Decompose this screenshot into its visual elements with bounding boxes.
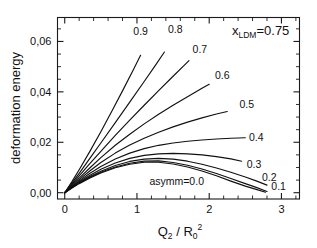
curve-series-group [65,52,267,193]
y-tick-label: 0,06 [30,35,51,47]
x-tick-label: 1 [134,203,140,215]
annotation-xldm-text: xLDM=0.75 [232,23,289,40]
curve-label-0-6: 0.6 [215,69,230,81]
x-tick-labels: 0123 [62,203,285,215]
curve-label-0-5: 0.5 [240,98,255,110]
x-axis-title-slash: / R [173,224,193,239]
x-axis-title-r-sub: 0 [193,231,198,241]
y-tick-label: 0,04 [30,86,51,98]
x-axis-title-text: Q2 / R02 [158,222,203,241]
y-axis-title: deformation energy [8,51,23,164]
x-tick-label: 2 [206,203,212,215]
curve-label-0-9: 0.9 [133,25,148,37]
y-tick-labels: 0,000,020,040,06 [30,35,51,198]
x-tick-label: 3 [278,203,284,215]
curve-label-0-2: 0.2 [262,171,277,183]
annotation-value: =0.75 [256,23,289,38]
x-axis-title-q: Q [158,224,168,239]
y-tick-label: 0,00 [30,187,51,199]
annotation-subscript: LDM [239,30,257,40]
curve-label-0-4: 0.4 [249,131,264,143]
x-axis-title-r-sup: 2 [198,222,203,232]
x-axis-title: Q2 / R02 [158,222,203,241]
curve-label-0-8: 0.8 [168,23,183,35]
x-tick-label: 0 [62,203,68,215]
curve-0-8 [65,52,165,193]
annotation-xldm: xLDM=0.75 [232,23,289,40]
curve-label-0-7: 0.7 [193,43,208,55]
curve-label-0-0: asymm=0.0 [149,175,204,187]
curve-label-0-3: 0.3 [247,158,262,170]
curve-0-7 [65,61,189,193]
deformation-energy-chart: 0,000,020,040,06 0123 asymm=0.00.10.20.3… [0,0,317,248]
y-axis-title-text: deformation energy [8,51,23,164]
y-tick-label: 0,02 [30,136,51,148]
figure-container: 0,000,020,040,06 0123 asymm=0.00.10.20.3… [0,0,317,248]
